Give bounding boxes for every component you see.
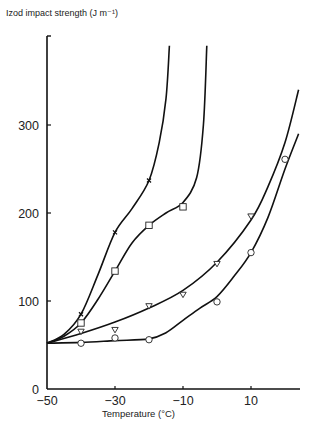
svg-text:300: 300 (18, 119, 39, 133)
axes: 0100200300−50−30−1010 (18, 36, 300, 408)
svg-text:100: 100 (18, 295, 39, 309)
svg-text:−30: −30 (104, 394, 125, 408)
svg-text:10: 10 (244, 394, 258, 408)
chart: 0100200300−50−30−1010 (0, 0, 317, 436)
svg-text:−10: −10 (172, 394, 193, 408)
svg-text:−50: −50 (36, 394, 57, 408)
plot-area (47, 46, 299, 347)
svg-text:200: 200 (18, 207, 39, 221)
x-axis-label: Temperature (°C) (102, 408, 175, 419)
y-axis-label: Izod impact strength (J m⁻¹) (6, 8, 118, 18)
